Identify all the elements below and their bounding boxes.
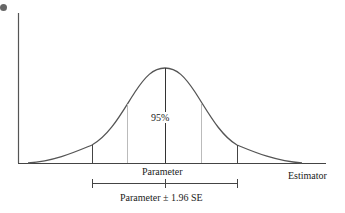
normal-curve-diagram xyxy=(0,0,345,213)
interval-label: Parameter ± 1.96 SE xyxy=(120,192,203,203)
x-axis-label: Estimator xyxy=(288,170,327,181)
parameter-label: Parameter xyxy=(142,166,183,177)
center-percent-label: 95% xyxy=(150,112,170,123)
